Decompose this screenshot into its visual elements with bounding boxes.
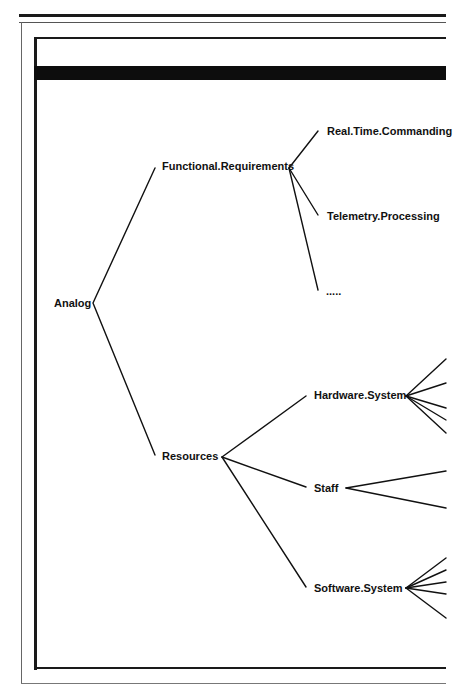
node-telemetry-processing: Telemetry.Processing <box>327 210 440 222</box>
node-resources: Resources <box>162 450 218 462</box>
node-functional-requirements: Functional.Requirements <box>162 160 294 172</box>
tree-connectors <box>0 0 467 699</box>
node-ellipsis: ..... <box>326 285 341 297</box>
node-analog: Analog <box>54 297 91 309</box>
node-hardware-system: Hardware.System <box>314 389 406 401</box>
node-real-time-commanding: Real.Time.Commanding <box>327 125 452 137</box>
node-software-system: Software.System <box>314 582 403 594</box>
node-staff: Staff <box>314 482 338 494</box>
edge-analog-functional <box>93 168 155 455</box>
